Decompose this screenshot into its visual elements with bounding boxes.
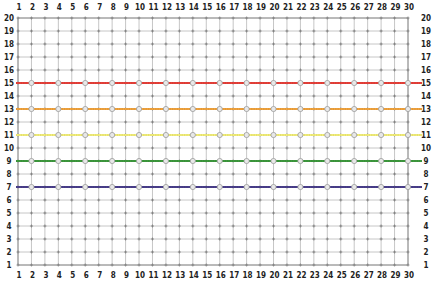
data-point-marker — [83, 106, 88, 111]
data-point-marker — [271, 158, 276, 163]
y-tick-label-left: 16 — [4, 66, 14, 75]
x-tick-label-bottom: 3 — [43, 271, 48, 280]
x-tick-label-bottom: 6 — [84, 271, 89, 280]
y-tick-label-right: 8 — [423, 170, 428, 179]
data-point-marker — [29, 158, 34, 163]
data-point-marker — [110, 80, 115, 85]
x-tick-label-bottom: 12 — [162, 271, 172, 280]
chart-series — [16, 80, 422, 189]
chart-caption — [55, 281, 385, 289]
data-point-marker — [298, 80, 303, 85]
x-tick-label-top: 23 — [310, 3, 320, 12]
x-tick-label-top: 19 — [256, 3, 266, 12]
data-point-marker — [110, 106, 115, 111]
x-tick-label-bottom: 23 — [310, 271, 320, 280]
data-point-marker — [217, 106, 222, 111]
y-tick-label-right: 13 — [421, 105, 431, 114]
data-point-marker — [136, 80, 141, 85]
series-red-line — [16, 80, 422, 85]
y-tick-label-left: 17 — [4, 53, 14, 62]
x-tick-label-bottom: 29 — [391, 271, 401, 280]
x-tick-label-top: 22 — [296, 3, 306, 12]
data-point-marker — [379, 132, 384, 137]
x-tick-label-top: 25 — [337, 3, 347, 12]
data-point-marker — [325, 80, 330, 85]
data-point-marker — [244, 132, 249, 137]
x-tick-label-top: 17 — [229, 3, 239, 12]
y-tick-label-right: 7 — [423, 183, 428, 192]
x-tick-label-bottom: 4 — [57, 271, 62, 280]
data-point-marker — [56, 158, 61, 163]
data-point-marker — [190, 158, 195, 163]
data-point-marker — [190, 80, 195, 85]
x-tick-label-top: 8 — [111, 3, 116, 12]
y-tick-label-left: 6 — [6, 196, 11, 205]
x-tick-label-bottom: 15 — [202, 271, 212, 280]
data-point-marker — [325, 132, 330, 137]
data-point-marker — [298, 132, 303, 137]
data-point-marker — [271, 184, 276, 189]
y-tick-label-left: 15 — [4, 79, 14, 88]
y-tick-label-right: 19 — [421, 27, 431, 36]
x-tick-label-bottom: 17 — [229, 271, 239, 280]
data-point-marker — [244, 106, 249, 111]
data-point-marker — [298, 106, 303, 111]
data-point-marker — [379, 106, 384, 111]
data-point-marker — [110, 184, 115, 189]
y-tick-label-left: 12 — [4, 118, 14, 127]
x-tick-label-bottom: 30 — [404, 271, 414, 280]
data-point-marker — [110, 132, 115, 137]
x-tick-label-top: 11 — [148, 3, 158, 12]
y-tick-label-left: 2 — [6, 248, 11, 257]
data-point-marker — [190, 132, 195, 137]
x-tick-label-bottom: 13 — [175, 271, 185, 280]
x-tick-label-bottom: 9 — [124, 271, 129, 280]
x-tick-label-top: 1 — [16, 3, 21, 12]
data-point-marker — [136, 184, 141, 189]
x-tick-label-top: 5 — [70, 3, 75, 12]
y-tick-label-left: 13 — [4, 105, 14, 114]
x-tick-label-bottom: 2 — [30, 271, 35, 280]
data-point-marker — [325, 184, 330, 189]
data-point-marker — [325, 106, 330, 111]
x-tick-label-top: 3 — [43, 3, 48, 12]
x-tick-label-bottom: 1 — [16, 271, 21, 280]
x-tick-label-bottom: 26 — [350, 271, 360, 280]
data-point-marker — [29, 184, 34, 189]
y-tick-label-right: 3 — [423, 235, 428, 244]
data-point-marker — [163, 158, 168, 163]
data-point-marker — [29, 106, 34, 111]
x-tick-label-bottom: 21 — [283, 271, 293, 280]
y-tick-label-left: 18 — [4, 40, 14, 49]
data-point-marker — [217, 80, 222, 85]
data-point-marker — [352, 80, 357, 85]
data-point-marker — [163, 80, 168, 85]
x-tick-label-top: 4 — [57, 3, 62, 12]
x-tick-label-bottom: 18 — [243, 271, 253, 280]
y-tick-label-left: 8 — [6, 170, 11, 179]
x-tick-label-top: 2 — [30, 3, 35, 12]
x-tick-label-top: 30 — [404, 3, 414, 12]
data-point-marker — [29, 132, 34, 137]
x-tick-label-bottom: 16 — [216, 271, 226, 280]
data-point-marker — [29, 80, 34, 85]
data-point-marker — [379, 184, 384, 189]
x-tick-label-top: 24 — [323, 3, 333, 12]
data-point-marker — [271, 132, 276, 137]
data-point-marker — [271, 106, 276, 111]
data-point-marker — [56, 80, 61, 85]
y-tick-label-right: 6 — [423, 196, 428, 205]
x-tick-label-top: 16 — [216, 3, 226, 12]
data-point-marker — [56, 132, 61, 137]
data-point-marker — [217, 158, 222, 163]
y-tick-label-left: 3 — [6, 235, 11, 244]
y-tick-label-right: 1 — [423, 261, 428, 270]
series-green-line — [16, 158, 422, 163]
x-tick-label-top: 6 — [84, 3, 89, 12]
y-tick-label-right: 12 — [421, 118, 431, 127]
data-point-marker — [244, 80, 249, 85]
data-point-marker — [56, 106, 61, 111]
data-point-marker — [163, 132, 168, 137]
x-tick-label-top: 27 — [364, 3, 374, 12]
data-point-marker — [405, 184, 410, 189]
